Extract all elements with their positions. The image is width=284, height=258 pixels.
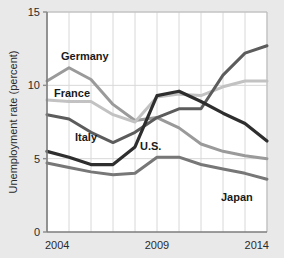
series-label-france: France <box>54 87 90 99</box>
series-label-germany: Germany <box>61 50 110 62</box>
y-tick-label-0: 0 <box>34 226 40 238</box>
y-tick-label-5: 5 <box>34 153 40 165</box>
y-tick-label-15: 15 <box>28 6 40 18</box>
series-label-us: U.S. <box>140 140 161 152</box>
y-tick-label-10: 10 <box>28 79 40 91</box>
y-axis-title: Unemployment rate (percent) <box>7 50 19 193</box>
unemployment-rate-line-chart: 051015 200420092014 GermanyFranceItalyU.… <box>0 0 284 258</box>
x-tick-label-2014: 2014 <box>245 239 269 251</box>
series-label-italy: Italy <box>75 131 98 143</box>
chart-canvas: 051015 200420092014 GermanyFranceItalyU.… <box>0 0 284 258</box>
x-tick-label-2009: 2009 <box>145 239 169 251</box>
series-label-japan: Japan <box>221 191 253 203</box>
x-tick-label-2004: 2004 <box>45 239 69 251</box>
